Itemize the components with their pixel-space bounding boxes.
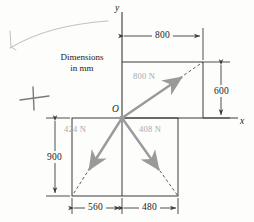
dimension-label-600: 600 bbox=[212, 85, 231, 97]
dimensions-note-line2: in mm bbox=[46, 63, 118, 74]
dimensions-note: Dimensions in mm bbox=[46, 52, 118, 74]
y-axis-label: y bbox=[115, 3, 119, 13]
x-axis-label: x bbox=[240, 116, 244, 126]
lower-rectangle bbox=[72, 118, 178, 196]
origin-dot bbox=[119, 115, 124, 120]
force-vectors bbox=[89, 77, 182, 170]
pencil-cross-v-icon bbox=[33, 87, 34, 110]
lower-rect-body bbox=[72, 118, 178, 196]
force-label-408n: 408 N bbox=[139, 124, 161, 134]
dimension-label-800: 800 bbox=[152, 30, 173, 40]
pencil-cross-h-icon bbox=[20, 96, 49, 100]
pencil-curve-icon bbox=[10, 21, 108, 48]
force-arrow-424n bbox=[89, 118, 122, 170]
dimension-label-560: 560 bbox=[85, 202, 106, 212]
origin-label: O bbox=[112, 104, 119, 114]
force-label-800n: 800 N bbox=[133, 71, 155, 81]
force-label-424n: 424 N bbox=[64, 124, 86, 134]
dimensions-note-line1: Dimensions bbox=[46, 52, 118, 63]
force-extension-lines bbox=[72, 62, 203, 196]
dimension-label-900: 900 bbox=[45, 151, 64, 163]
force-vector-diagram bbox=[0, 0, 254, 222]
pencil-hook-icon bbox=[10, 31, 16, 50]
dimension-label-480: 480 bbox=[139, 202, 160, 212]
force-arrow-800n bbox=[122, 77, 182, 118]
